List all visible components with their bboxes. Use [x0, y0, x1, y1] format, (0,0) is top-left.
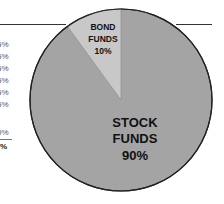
pie-chart: BOND FUNDS 10% STOCK FUNDS 90%: [0, 0, 224, 204]
stock-label-2: FUNDS: [113, 131, 158, 146]
bond-pct: 10%: [94, 46, 111, 56]
stock-label-1: STOCK: [112, 115, 158, 130]
stock-pct: 90%: [122, 148, 148, 163]
bond-label-2: FUNDS: [88, 34, 118, 44]
bond-label-1: BOND: [90, 22, 115, 32]
